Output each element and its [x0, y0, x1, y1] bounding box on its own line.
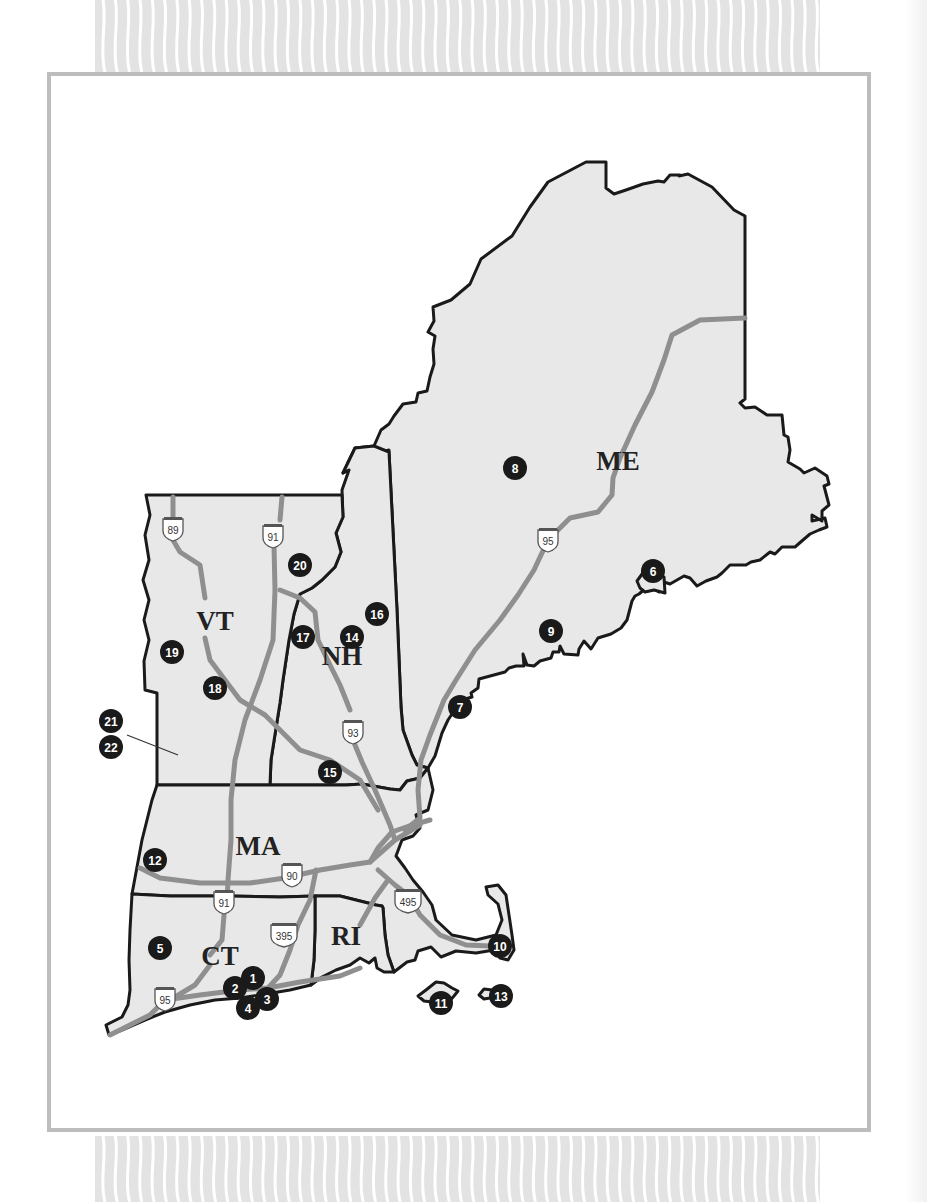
- state-label-ct: CT: [201, 941, 239, 971]
- shield-route-number: 95: [542, 536, 554, 547]
- shield-route-number: 90: [286, 871, 298, 882]
- new-england-map: 89919395909139549595 MENHVTMACTRI 123456…: [0, 0, 927, 1202]
- marker-number: 19: [165, 646, 179, 660]
- interstate-shield-495: 495: [395, 889, 421, 913]
- location-marker-19[interactable]: 19: [160, 640, 184, 664]
- location-marker-21[interactable]: 21: [99, 709, 123, 733]
- interstate-shield-90: 90: [282, 863, 302, 887]
- marker-number: 7: [457, 701, 464, 715]
- location-marker-4[interactable]: 4: [236, 996, 260, 1020]
- state-maine[interactable]: [343, 162, 829, 768]
- location-marker-12[interactable]: 12: [143, 848, 167, 872]
- interstate-shield-395: 395: [271, 923, 297, 947]
- shield-route-number: 395: [276, 931, 293, 942]
- marker-number: 14: [345, 631, 359, 645]
- interstate-shield-89: 89: [163, 517, 183, 541]
- marker-number: 13: [494, 990, 508, 1004]
- state-label-vt: VT: [196, 606, 234, 636]
- marker-number: 10: [493, 940, 507, 954]
- location-marker-16[interactable]: 16: [365, 602, 389, 626]
- marker-number: 9: [548, 625, 555, 639]
- shield-route-number: 91: [267, 532, 279, 543]
- highway-i91-north: [280, 497, 282, 520]
- marker-number: 1: [250, 972, 257, 986]
- state-label-ma: MA: [236, 831, 281, 861]
- marker-number: 8: [512, 462, 519, 476]
- interstate-shield-95: 95: [155, 987, 175, 1011]
- shield-route-number: 95: [159, 995, 171, 1006]
- marker-number: 6: [650, 565, 657, 579]
- marker-number: 11: [435, 997, 448, 1011]
- marker-number: 12: [148, 854, 162, 868]
- marker-number: 21: [104, 715, 118, 729]
- marker-number: 20: [293, 559, 307, 573]
- location-marker-6[interactable]: 6: [641, 559, 665, 583]
- location-marker-20[interactable]: 20: [288, 553, 312, 577]
- interstate-shield-95: 95: [538, 528, 558, 552]
- shield-route-number: 495: [400, 897, 417, 908]
- location-marker-9[interactable]: 9: [539, 619, 563, 643]
- location-marker-10[interactable]: 10: [488, 934, 512, 958]
- interstate-shield-91: 91: [214, 890, 234, 914]
- state-label-ri: RI: [331, 921, 361, 951]
- marker-number: 16: [370, 608, 384, 622]
- marker-number: 15: [323, 766, 337, 780]
- shield-route-number: 91: [218, 898, 230, 909]
- location-marker-7[interactable]: 7: [448, 695, 472, 719]
- location-marker-14[interactable]: 14: [340, 625, 364, 649]
- location-marker-2[interactable]: 2: [223, 976, 247, 1000]
- location-marker-5[interactable]: 5: [148, 936, 172, 960]
- marker-number: 4: [245, 1002, 252, 1016]
- marker-number: 22: [104, 741, 118, 755]
- shield-route-number: 89: [167, 525, 179, 536]
- location-marker-11[interactable]: 11: [429, 991, 453, 1015]
- state-label-me: ME: [596, 446, 640, 476]
- location-marker-17[interactable]: 17: [291, 625, 315, 649]
- shield-route-number: 93: [347, 728, 359, 739]
- interstate-shield-93: 93: [343, 720, 363, 744]
- location-marker-22[interactable]: 22: [99, 735, 123, 759]
- interstate-shield-91: 91: [263, 524, 283, 548]
- marker-number: 17: [296, 631, 310, 645]
- location-marker-13[interactable]: 13: [489, 984, 513, 1008]
- marker-number: 18: [208, 682, 222, 696]
- location-marker-8[interactable]: 8: [503, 456, 527, 480]
- marker-number: 5: [157, 942, 164, 956]
- location-marker-18[interactable]: 18: [203, 676, 227, 700]
- location-marker-15[interactable]: 15: [318, 760, 342, 784]
- marker-number: 3: [264, 993, 271, 1007]
- marker-number: 2: [232, 982, 239, 996]
